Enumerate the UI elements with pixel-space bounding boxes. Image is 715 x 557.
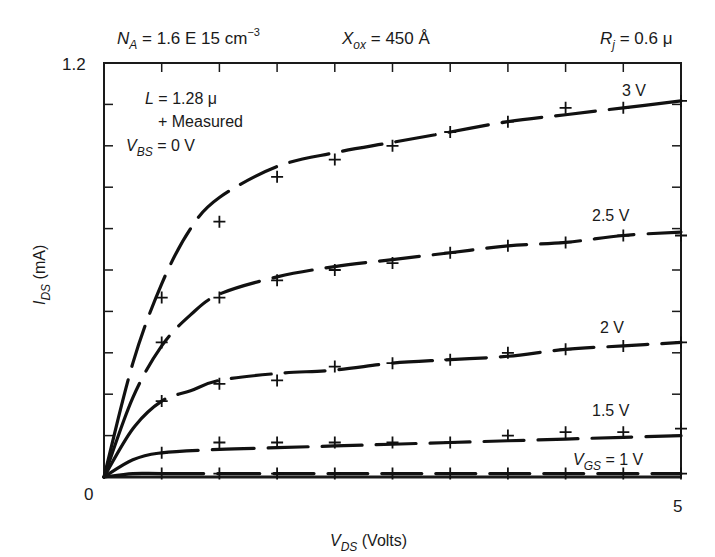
measured-point-marker <box>444 126 456 138</box>
measured-point-marker <box>156 447 168 459</box>
measured-point-marker <box>271 374 283 386</box>
measured-point-marker <box>617 340 629 352</box>
measured-legend: + Measured <box>158 113 243 130</box>
measured-point-marker <box>502 240 514 252</box>
curve-label-2-5v: 2.5 V <box>592 207 630 224</box>
xox-param: Xox = 450 Å <box>341 29 430 52</box>
curve-label-2v: 2 V <box>600 319 624 336</box>
measured-point-marker <box>387 357 399 369</box>
measured-point-marker <box>271 171 283 183</box>
measured-point-marker <box>560 426 572 438</box>
rj-param: Rj = 0.6 μ <box>600 29 672 52</box>
y-axis-label: IDS (mA) <box>31 245 53 305</box>
svg-text:IDS (mA): IDS (mA) <box>31 245 53 305</box>
measured-point-marker <box>213 378 225 390</box>
x-tick-zero: 0 <box>84 485 93 504</box>
measured-point-marker <box>213 216 225 228</box>
model-curve-3-V <box>104 101 681 477</box>
measured-point-marker <box>329 154 341 166</box>
measured-point-marker <box>560 102 572 114</box>
measured-point-marker <box>387 437 399 449</box>
curve-label-1-5v: 1.5 V <box>592 402 630 419</box>
curve-label-vgs-1v: VGS = 1 V <box>573 451 644 473</box>
measured-point-marker <box>675 423 687 435</box>
measured-point-marker <box>444 437 456 449</box>
y-tick-top: 1.2 <box>62 55 86 74</box>
measured-point-marker <box>617 102 629 114</box>
vbs-annotation: VBS = 0 V <box>126 137 195 159</box>
curve-label-3v: 3 V <box>622 82 646 99</box>
measured-point-marker <box>675 336 687 348</box>
measured-point-marker <box>444 354 456 366</box>
measured-point-marker <box>560 343 572 355</box>
length-annotation: L = 1.28 μ <box>145 90 217 107</box>
measured-point-marker <box>213 437 225 449</box>
na-param: NA = 1.6 E 15 cm−3 <box>117 26 260 52</box>
measured-point-marker <box>617 230 629 242</box>
x-tick-five: 5 <box>673 497 682 516</box>
measured-point-marker <box>502 116 514 128</box>
measured-point-marker <box>560 236 572 248</box>
iv-characteristics-chart: NA = 1.6 E 15 cm−3 Xox = 450 Å Rj = 0.6 … <box>0 0 715 557</box>
measured-point-marker <box>444 247 456 259</box>
x-axis-label: VDS (Volts) <box>330 532 407 554</box>
